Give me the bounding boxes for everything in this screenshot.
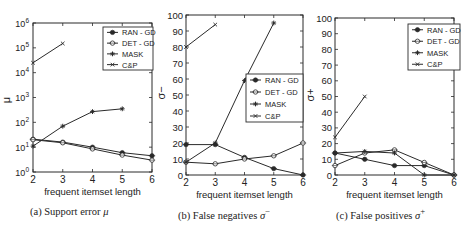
y-tick-label: 70 xyxy=(321,60,332,71)
legend-label: C&P xyxy=(122,61,137,70)
x-tick-label: 5 xyxy=(271,177,277,188)
caption-false-negatives: (b) False negatives σ− xyxy=(178,206,270,221)
caption-superscript: − xyxy=(265,206,270,216)
y-tick-label: 60 xyxy=(321,75,332,86)
y-tick-label: 0 xyxy=(327,170,332,181)
caption-text: (a) Support error xyxy=(30,206,103,217)
y-tick-label: 20 xyxy=(172,138,183,149)
legend-label: MASK xyxy=(122,50,143,59)
caption-support-error: (a) Support error μ xyxy=(30,206,108,217)
marker-star-icon xyxy=(415,50,420,55)
x-tick-label: 6 xyxy=(451,177,457,188)
x-axis-label: frequent itemset length xyxy=(196,189,293,200)
y-tick-label: 0 xyxy=(178,170,183,181)
x-tick-label: 4 xyxy=(90,174,96,185)
figure-canvas: 23456frequent itemset length100101102103… xyxy=(0,0,472,237)
chart-support-error: 23456frequent itemset length100101102103… xyxy=(0,17,156,198)
marker-star-icon xyxy=(253,102,258,107)
caption-text: (b) False negatives xyxy=(178,210,260,221)
marker-star-icon xyxy=(422,173,427,178)
x-tick-label: 3 xyxy=(212,177,218,188)
y-tick-label: 100 xyxy=(167,10,183,21)
series-det-gd xyxy=(30,137,155,162)
y-tick-label: 80 xyxy=(321,44,332,55)
x-tick-label: 4 xyxy=(242,177,248,188)
x-tick-label: 5 xyxy=(421,177,427,188)
y-tick-label: 90 xyxy=(172,26,183,37)
chart-false-negatives: 23456frequent itemset length010203040506… xyxy=(155,10,306,201)
y-tick-label: 90 xyxy=(321,28,332,39)
marker-star-icon xyxy=(362,149,367,154)
y-tick-label: 100 xyxy=(316,13,332,24)
y-tick-label: 104 xyxy=(15,66,29,78)
y-tick-label: 70 xyxy=(172,58,183,69)
marker-star-icon xyxy=(60,124,65,129)
legend: RAN - GDDET - GDMASKC&P xyxy=(246,74,303,122)
caption-false-positives: (c) False positives σ+ xyxy=(336,206,425,221)
x-tick-label: 4 xyxy=(392,177,398,188)
x-tick-label: 2 xyxy=(30,174,36,185)
x-tick-label: 5 xyxy=(119,174,125,185)
legend-label: DET - GD xyxy=(122,39,155,48)
marker-star-icon xyxy=(213,141,218,146)
y-tick-label: 103 xyxy=(15,91,29,103)
legend: RAN - GDDET - GDMASKC&P xyxy=(408,24,461,70)
series-c-p xyxy=(333,95,366,139)
marker-star-icon xyxy=(110,51,115,56)
y-tick-label: 20 xyxy=(321,138,332,149)
series-c-p xyxy=(31,42,64,65)
marker-star-icon xyxy=(271,21,276,26)
y-tick-label: 80 xyxy=(172,42,183,53)
x-axis-label: frequent itemset length xyxy=(44,186,141,197)
y-tick-label: 10 xyxy=(172,154,183,165)
y-tick-label: 101 xyxy=(15,141,29,153)
legend-label: RAN - GD xyxy=(427,26,461,35)
y-tick-label: 100 xyxy=(15,166,29,178)
y-tick-label: 105 xyxy=(15,41,29,53)
y-tick-label: 50 xyxy=(321,91,332,102)
series-mask xyxy=(31,106,125,148)
legend-label: RAN - GD xyxy=(265,76,299,85)
y-axis-label: σ− xyxy=(155,86,167,99)
caption-symbol: μ xyxy=(103,206,108,217)
legend-label: DET - GD xyxy=(427,37,460,46)
y-tick-label: 102 xyxy=(15,116,29,128)
x-axis-label: frequent itemset length xyxy=(346,189,443,200)
y-tick-label: 50 xyxy=(172,90,183,101)
series-c-p xyxy=(184,23,217,49)
chart-false-positives: 23456frequent itemset length010203040506… xyxy=(304,13,461,201)
legend-label: MASK xyxy=(427,49,448,58)
y-axis-label: μ xyxy=(0,97,12,103)
marker-star-icon xyxy=(392,151,397,156)
y-tick-label: 30 xyxy=(172,122,183,133)
x-tick-label: 6 xyxy=(149,174,155,185)
x-tick-label: 6 xyxy=(300,177,306,188)
legend-label: C&P xyxy=(265,112,280,121)
marker-star-icon xyxy=(452,173,457,178)
marker-star-icon xyxy=(184,160,189,165)
legend-label: MASK xyxy=(265,100,286,109)
legend-label: C&P xyxy=(427,60,442,69)
marker-star-icon xyxy=(90,109,95,114)
y-tick-label: 10 xyxy=(321,154,332,165)
y-axis-label: σ+ xyxy=(304,88,316,101)
caption-superscript: + xyxy=(420,206,425,216)
legend: RAN - GDDET - GDMASKC&P xyxy=(103,27,156,70)
marker-star-icon xyxy=(333,151,338,156)
caption-text: (c) False positives xyxy=(336,210,415,221)
marker-x-icon xyxy=(213,23,217,27)
marker-x-icon xyxy=(61,42,65,46)
legend-label: RAN - GD xyxy=(122,28,156,37)
marker-x-icon xyxy=(363,95,367,99)
x-tick-label: 2 xyxy=(332,177,338,188)
marker-star-icon xyxy=(31,144,36,149)
y-tick-label: 60 xyxy=(172,74,183,85)
y-tick-label: 40 xyxy=(172,106,183,117)
legend-label: DET - GD xyxy=(265,88,298,97)
y-tick-label: 40 xyxy=(321,107,332,118)
y-tick-label: 30 xyxy=(321,122,332,133)
x-tick-label: 2 xyxy=(183,177,189,188)
y-tick-label: 106 xyxy=(15,17,29,29)
x-tick-label: 3 xyxy=(60,174,66,185)
x-tick-label: 3 xyxy=(362,177,368,188)
